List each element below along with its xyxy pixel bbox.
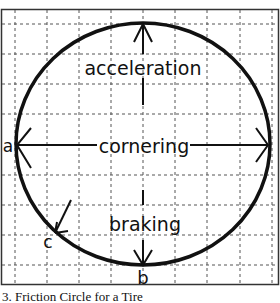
label-point-a: a <box>3 136 13 156</box>
label-acceleration: acceleration <box>84 57 201 79</box>
figure-caption: 3. Friction Circle for a Tire <box>2 289 143 303</box>
friction-circle-diagram: acceleration cornering braking a b c <box>0 0 280 303</box>
label-point-c: c <box>43 232 52 252</box>
label-braking: braking <box>109 213 181 235</box>
label-cornering: cornering <box>99 135 189 157</box>
label-point-b: b <box>137 267 148 288</box>
